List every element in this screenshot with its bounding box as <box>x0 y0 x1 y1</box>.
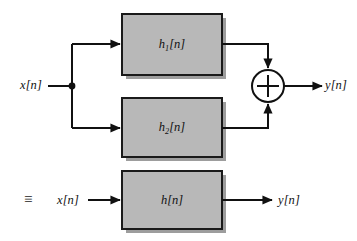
equivalence-symbol: ≡ <box>24 191 32 208</box>
wire-h1-to-sum <box>222 44 268 68</box>
figure-canvas: x[n] y[n] h1[n] h2[n] ≡ x[n] h[n] y[n] <box>0 0 357 241</box>
block-h-label: h[n] <box>122 193 222 209</box>
wire-h2-to-sum <box>222 104 268 128</box>
output-label-top: y[n] <box>325 78 347 93</box>
output-label-bottom: y[n] <box>278 193 300 208</box>
block-h2-label-tail: [n] <box>169 120 185 134</box>
block-h2-label: h2[n] <box>122 120 222 136</box>
block-h1-label: h1[n] <box>122 37 222 53</box>
block-h1-label-tail: [n] <box>169 37 185 51</box>
input-label-top: x[n] <box>20 78 42 93</box>
branch-dot <box>69 83 76 90</box>
input-label-bottom: x[n] <box>57 193 79 208</box>
block-h-label-tail: [n] <box>167 193 183 207</box>
